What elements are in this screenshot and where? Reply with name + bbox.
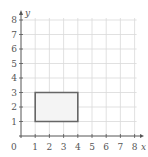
- x-tick-label: 4: [75, 142, 81, 152]
- x-axis-label: x: [141, 142, 146, 152]
- x-tick-label: 8: [132, 142, 138, 152]
- x-tick-label: 7: [118, 142, 124, 152]
- x-tick-label: 3: [61, 142, 67, 152]
- x-tick-label: 1: [32, 142, 38, 152]
- y-tick-label: 7: [11, 30, 17, 40]
- rectangle-shape: [35, 93, 78, 122]
- x-tick-label: 2: [47, 142, 53, 152]
- y-tick-label: 8: [11, 15, 17, 25]
- y-tick-label: 3: [11, 88, 17, 98]
- x-tick-label: 6: [103, 142, 109, 152]
- x-axis-arrow-icon: [140, 134, 144, 138]
- origin-label: 0: [11, 142, 17, 152]
- shapes-layer: [35, 93, 78, 122]
- y-tick-label: 6: [11, 44, 17, 54]
- x-tick-label: 5: [89, 142, 95, 152]
- y-axis-label: y: [24, 8, 31, 18]
- y-tick-label: 5: [11, 59, 17, 69]
- y-tick-label: 4: [11, 73, 17, 83]
- y-tick-label: 1: [11, 117, 17, 127]
- y-axis-arrow-icon: [19, 10, 23, 15]
- coordinate-grid: 1234567812345678 0 x y: [0, 0, 148, 157]
- tick-labels: 1234567812345678: [11, 15, 138, 152]
- y-tick-label: 2: [11, 102, 17, 112]
